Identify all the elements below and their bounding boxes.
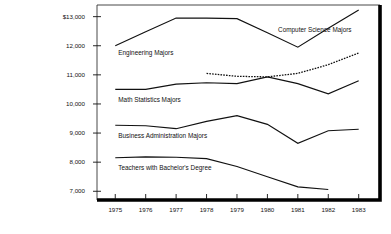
series-line-computer-science-majors	[207, 53, 359, 77]
y-tick-label: 7,000	[70, 187, 86, 194]
x-tick-label: 1975	[108, 206, 122, 213]
x-tick-label: 1976	[139, 206, 153, 213]
series-line-business-administration-majors	[115, 116, 358, 144]
x-axis: 197519761977197819791980198119821983	[108, 194, 366, 213]
x-tick-label: 1979	[230, 206, 244, 213]
x-tick-label: 1980	[261, 206, 275, 213]
series-label-engineering-majors: Engineering Majors	[118, 49, 173, 57]
x-tick-label: 1977	[169, 206, 183, 213]
y-tick-label: 9,000	[70, 129, 86, 136]
series-label-computer-science-majors: Computer Science Majors	[278, 26, 352, 34]
x-tick-label: 1983	[352, 206, 366, 213]
series-line-teachers-with-bachelor-s-degree	[115, 157, 328, 190]
line-chart: $13,00012,00011,00010,0009,0008,0007,000…	[0, 0, 391, 234]
chart-container: $13,00012,00011,00010,0009,0008,0007,000…	[0, 0, 391, 234]
y-tick-label: 12,000	[66, 42, 85, 49]
series-label-business-administration-majors: Business Administration Majors	[118, 132, 207, 140]
series-label-teachers-with-bachelor-s-degree: Teachers with Bachelor's Degree	[118, 164, 212, 172]
y-tick-label: 10,000	[66, 100, 85, 107]
x-tick-label: 1981	[291, 206, 305, 213]
y-tick-label: 8,000	[70, 158, 86, 165]
x-tick-label: 1982	[321, 206, 335, 213]
y-tick-label: $13,000	[63, 13, 86, 20]
y-tick-label: 11,000	[67, 71, 86, 78]
y-axis: $13,00012,00011,00010,0009,0008,0007,000	[63, 13, 101, 195]
series-line-math-statistics-majors	[115, 77, 358, 94]
series-label-layer: Engineering MajorsComputer Science Major…	[118, 26, 351, 173]
x-tick-label: 1978	[200, 206, 214, 213]
series-label-math-statistics-majors: Math Statistics Majors	[118, 96, 181, 104]
